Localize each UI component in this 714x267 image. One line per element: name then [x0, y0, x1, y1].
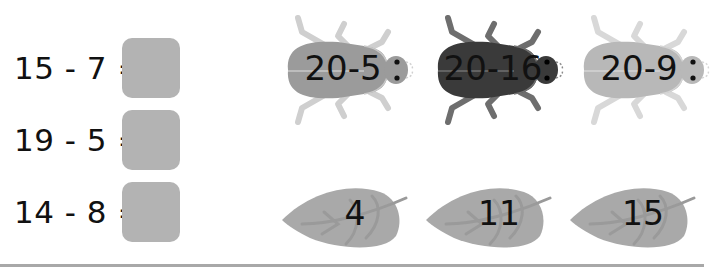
equation-text: 14 - 8 =	[14, 194, 122, 230]
leaf-label: 15	[598, 194, 688, 233]
beetle-card-3[interactable]: 20-9	[574, 10, 714, 130]
equation-row-2: 19 - 5 =	[14, 110, 180, 170]
answer-box[interactable]	[122, 182, 180, 242]
beetle-card-1[interactable]: 20-5	[278, 10, 428, 130]
answer-box[interactable]	[122, 38, 180, 98]
beetle-label: 20-16	[438, 48, 548, 88]
answer-box[interactable]	[122, 110, 180, 170]
equation-text: 15 - 7 =	[14, 50, 122, 86]
beetle-label: 20-9	[584, 48, 694, 88]
leaf-label: 11	[454, 194, 544, 233]
beetle-label: 20-5	[288, 48, 398, 88]
beetle-card-2[interactable]: 20-16	[428, 10, 578, 130]
leaf-card-3[interactable]: 15	[568, 180, 708, 252]
leaf-card-2[interactable]: 11	[424, 180, 564, 252]
equation-text: 19 - 5 =	[14, 122, 122, 158]
equation-row-1: 15 - 7 =	[14, 38, 180, 98]
equation-row-3: 14 - 8 =	[14, 182, 180, 242]
leaf-card-1[interactable]: 4	[280, 180, 420, 252]
leaf-label: 4	[310, 194, 400, 233]
